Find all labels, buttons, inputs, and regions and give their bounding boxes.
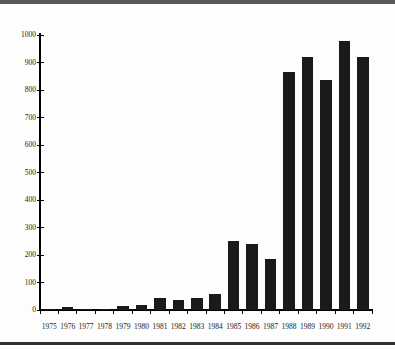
y-axis-tick-label: 800 bbox=[4, 86, 36, 94]
y-axis-tick bbox=[37, 227, 44, 228]
bar-1985 bbox=[228, 241, 240, 310]
x-axis-tick bbox=[372, 309, 373, 314]
bar-1981 bbox=[154, 298, 166, 310]
x-axis-tick bbox=[242, 309, 243, 314]
y-axis-tick-label: 500 bbox=[4, 169, 36, 177]
x-axis-tick bbox=[206, 309, 207, 314]
y-axis-tick-label: 700 bbox=[4, 114, 36, 122]
x-axis-tick bbox=[187, 309, 188, 314]
y-axis-tick bbox=[37, 282, 44, 283]
x-axis-tick bbox=[279, 309, 280, 314]
y-axis-tick bbox=[37, 172, 44, 173]
y-axis-tick bbox=[37, 255, 44, 256]
y-axis-tick-label: 400 bbox=[4, 196, 36, 204]
x-axis-tick bbox=[298, 309, 299, 314]
bar-1992 bbox=[357, 57, 369, 310]
bar-1982 bbox=[173, 300, 185, 310]
x-axis-tick bbox=[353, 309, 354, 314]
x-axis-tick bbox=[58, 309, 59, 314]
bar-1983 bbox=[191, 298, 203, 310]
y-axis-tick bbox=[37, 35, 44, 36]
x-axis-tick bbox=[224, 309, 225, 314]
bar-1978 bbox=[99, 309, 111, 310]
bar-1977 bbox=[80, 309, 92, 310]
bottom-border-rule bbox=[0, 342, 395, 345]
y-axis-tick-label: 0 bbox=[4, 306, 36, 314]
y-axis-tick-label: 200 bbox=[4, 251, 36, 259]
y-axis-tick-label: 1000 bbox=[4, 31, 36, 39]
x-axis-tick bbox=[261, 309, 262, 314]
x-axis-tick bbox=[169, 309, 170, 314]
x-axis-tick bbox=[316, 309, 317, 314]
bar-1990 bbox=[320, 80, 332, 310]
bar-1975 bbox=[43, 309, 55, 310]
x-axis-tick bbox=[95, 309, 96, 314]
x-axis-tick bbox=[113, 309, 114, 314]
y-axis-tick-label: 100 bbox=[4, 279, 36, 287]
y-axis-tick bbox=[37, 200, 44, 201]
scanned-figure-page: 0100200300400500600700800900100019751976… bbox=[0, 0, 395, 349]
plot-area: 0100200300400500600700800900100019751976… bbox=[0, 0, 395, 349]
x-axis-tick bbox=[150, 309, 151, 314]
x-axis-tick bbox=[132, 309, 133, 314]
bar-1986 bbox=[246, 244, 258, 310]
x-axis-label-1992: 1992 bbox=[350, 323, 376, 331]
bar-1989 bbox=[302, 57, 314, 310]
bar-1988 bbox=[283, 72, 295, 310]
y-axis-tick bbox=[37, 145, 44, 146]
y-axis-tick bbox=[37, 117, 44, 118]
y-axis-tick bbox=[37, 62, 44, 63]
bar-1980 bbox=[136, 305, 148, 311]
y-axis-tick-label: 900 bbox=[4, 59, 36, 67]
bar-1976 bbox=[62, 307, 74, 310]
bar-1979 bbox=[117, 306, 129, 310]
x-axis-tick bbox=[40, 309, 41, 314]
x-axis-tick bbox=[76, 309, 77, 314]
bar-1987 bbox=[265, 259, 277, 310]
y-axis-tick-label: 600 bbox=[4, 141, 36, 149]
x-axis-tick bbox=[335, 309, 336, 314]
y-axis-tick-label: 300 bbox=[4, 224, 36, 232]
y-axis-tick bbox=[37, 90, 44, 91]
bar-1984 bbox=[209, 294, 221, 311]
bar-1991 bbox=[339, 41, 351, 311]
